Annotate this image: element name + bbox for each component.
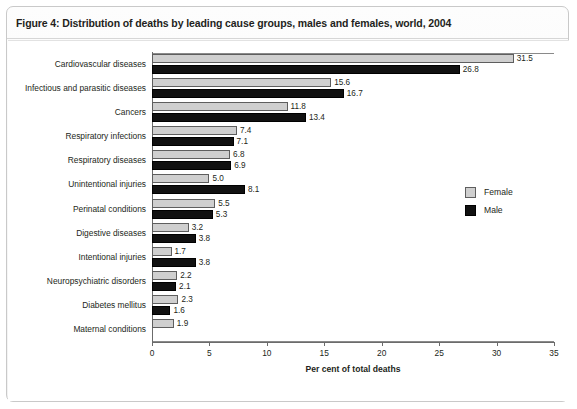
category-label: Maternal conditions	[0, 324, 146, 334]
x-axis-tick	[324, 342, 325, 346]
chart-legend: FemaleMale	[465, 185, 550, 221]
bar-value-label: 2.3	[181, 295, 192, 304]
bar-male	[152, 306, 170, 315]
bar-value-label: 5.0	[212, 174, 223, 183]
bar-group: 31.526.8	[152, 53, 554, 76]
bar-group: 2.22.1	[152, 270, 554, 293]
bar-group: 1.9	[152, 318, 554, 341]
bar-value-label: 7.1	[237, 137, 248, 146]
x-axis-tick-label: 35	[549, 348, 558, 358]
bar-value-label: 26.8	[463, 65, 479, 74]
x-axis-tick-label: 5	[207, 348, 212, 358]
legend-label-female: Female	[484, 187, 513, 198]
x-axis-tick	[554, 342, 555, 346]
bar-male	[152, 282, 176, 291]
category-label: Perinatal conditions	[0, 204, 146, 214]
x-axis-tick-label: 20	[377, 348, 386, 358]
bar-female	[152, 174, 209, 183]
legend-swatch-female	[465, 187, 476, 198]
figure-container: Figure 4: Distribution of deaths by lead…	[0, 0, 577, 409]
bar-value-label: 1.9	[177, 319, 188, 328]
x-axis-tick	[209, 342, 210, 346]
bar-value-label: 3.8	[199, 258, 210, 267]
x-axis-tick	[497, 342, 498, 346]
legend-item-female: Female	[465, 185, 550, 201]
bar-value-label: 2.2	[180, 271, 191, 280]
bar-male	[152, 161, 231, 170]
legend-item-male: Male	[465, 203, 550, 219]
bar-female	[152, 223, 189, 232]
x-axis-tick-label: 15	[320, 348, 329, 358]
bar-group: 3.23.8	[152, 222, 554, 245]
bar-value-label: 1.6	[173, 306, 184, 315]
figure-title: Figure 4: Distribution of deaths by lead…	[16, 17, 451, 29]
bar-value-label: 5.3	[216, 210, 227, 219]
bar-value-label: 13.4	[309, 113, 325, 122]
bar-value-label: 3.2	[192, 223, 203, 232]
bar-group: 7.47.1	[152, 125, 554, 148]
category-label: Cancers	[0, 107, 146, 117]
x-axis-tick-label: 10	[262, 348, 271, 358]
category-label: Digestive diseases	[0, 228, 146, 238]
bar-group: 6.86.9	[152, 149, 554, 172]
x-axis-tick	[439, 342, 440, 346]
bar-value-label: 31.5	[517, 54, 533, 63]
bar-value-label: 5.5	[218, 199, 229, 208]
bar-value-label: 6.9	[234, 161, 245, 170]
bar-group: 15.616.7	[152, 77, 554, 100]
x-axis-tick	[382, 342, 383, 346]
bar-female	[152, 126, 237, 135]
bar-group: 1.73.8	[152, 246, 554, 269]
x-axis-line	[152, 342, 555, 343]
bar-male	[152, 89, 344, 98]
bar-male	[152, 185, 245, 194]
category-label: Respiratory infections	[0, 131, 146, 141]
category-label: Respiratory diseases	[0, 155, 146, 165]
bar-male	[152, 113, 306, 122]
category-label: Unintentional injuries	[0, 179, 146, 189]
bar-group: 2.31.6	[152, 294, 554, 317]
bar-female	[152, 319, 174, 328]
bar-female	[152, 271, 177, 280]
bar-male	[152, 65, 460, 74]
bar-male	[152, 137, 234, 146]
bar-female	[152, 247, 172, 256]
bar-female	[152, 54, 514, 63]
x-axis-tick	[267, 342, 268, 346]
bar-female	[152, 150, 230, 159]
x-axis-tick-label: 30	[492, 348, 501, 358]
category-label: Cardiovascular diseases	[0, 59, 146, 69]
bar-value-label: 3.8	[199, 234, 210, 243]
bar-male	[152, 210, 213, 219]
bar-value-label: 8.1	[248, 185, 259, 194]
category-label: Diabetes mellitus	[0, 300, 146, 310]
bar-value-label: 11.8	[291, 102, 306, 111]
bar-group: 11.813.4	[152, 101, 554, 124]
bar-female	[152, 295, 178, 304]
bar-female	[152, 199, 215, 208]
category-label: Infectious and parasitic diseases	[0, 83, 146, 93]
bar-value-label: 1.7	[175, 247, 186, 256]
bar-value-label: 15.6	[334, 78, 350, 87]
x-axis-title: Per cent of total deaths	[152, 364, 554, 374]
legend-swatch-male	[465, 205, 476, 216]
title-divider	[7, 38, 568, 39]
x-axis-tick-label: 25	[434, 348, 443, 358]
legend-label-male: Male	[484, 205, 503, 216]
bar-female	[152, 102, 288, 111]
bar-male	[152, 234, 196, 243]
category-axis-labels: Cardiovascular diseasesInfectious and pa…	[0, 53, 146, 342]
category-label: Intentional injuries	[0, 252, 146, 262]
bar-male	[152, 258, 196, 267]
bar-value-label: 2.1	[179, 282, 190, 291]
x-axis-tick	[152, 342, 153, 346]
bar-female	[152, 78, 331, 87]
x-axis-tick-label: 0	[150, 348, 155, 358]
category-label: Neuropsychiatric disorders	[0, 276, 146, 286]
bar-value-label: 6.8	[233, 150, 244, 159]
bar-value-label: 7.4	[240, 126, 251, 135]
bar-value-label: 16.7	[347, 89, 363, 98]
